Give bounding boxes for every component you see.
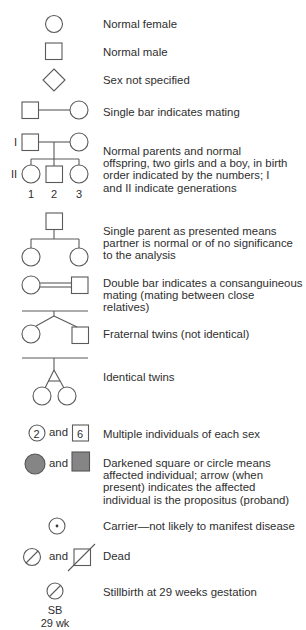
identical-twins-icon xyxy=(22,358,88,405)
stillbirth-age: 29 wk xyxy=(41,617,70,629)
generation-label: I xyxy=(14,136,17,148)
legend-text-carrier: Carrier—not likely to manifest disease xyxy=(103,520,303,532)
birth-order-label: 2 xyxy=(51,188,57,200)
mating-icon xyxy=(22,101,88,119)
female-count: 2 xyxy=(34,428,40,440)
diamond-icon xyxy=(43,69,65,91)
female-icon xyxy=(46,16,63,33)
legend-text-single-parent: Single parent as presented means partner… xyxy=(103,225,303,262)
stillbirth-icon xyxy=(47,583,63,599)
birth-order-label: 3 xyxy=(76,188,82,200)
birth-order-label: 1 xyxy=(28,188,34,200)
consanguineous-mating-icon xyxy=(22,276,88,294)
legend-text-family: Normal parents and normal offspring, two… xyxy=(103,145,288,194)
generation-label: II xyxy=(11,168,17,180)
legend-text-affected: Darkened square or circle means affected… xyxy=(103,457,303,506)
pedigree-symbols: I II 1 2 3 2 xyxy=(0,0,306,630)
legend-text-double-bar: Double bar indicates a consanguineous ma… xyxy=(103,277,303,314)
male-count: 6 xyxy=(77,428,83,440)
single-parent-icon xyxy=(22,213,88,266)
and-label: and xyxy=(49,426,68,438)
legend-text-normal-female: Normal female xyxy=(103,18,303,30)
legend-text-identical-twins: Identical twins xyxy=(103,371,303,383)
legend-text-dead: Dead xyxy=(103,550,303,562)
family-pedigree-icon xyxy=(22,133,88,183)
male-icon xyxy=(46,43,63,60)
legend-text-fraternal-twins: Fraternal twins (not identical) xyxy=(103,328,303,340)
carrier-icon xyxy=(49,518,65,534)
legend-text-multiple: Multiple individuals of each sex xyxy=(103,428,303,440)
legend-text-stillbirth: Stillbirth at 29 weeks gestation xyxy=(103,586,303,598)
and-label: and xyxy=(49,457,68,469)
legend-text-mating: Single bar indicates mating xyxy=(103,106,303,118)
legend-text-normal-male: Normal male xyxy=(103,46,303,58)
stillbirth-code: SB xyxy=(48,604,63,616)
fraternal-twins-icon xyxy=(22,311,89,344)
legend-text-sex-not-specified: Sex not specified xyxy=(103,74,303,86)
and-label: and xyxy=(49,550,68,562)
